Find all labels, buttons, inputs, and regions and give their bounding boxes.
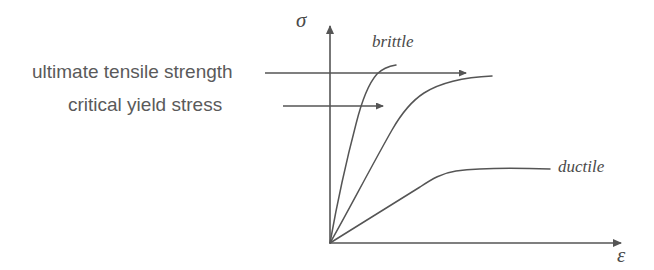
curve-label-ductile: ductile: [558, 158, 604, 175]
curve-brittle: [330, 65, 396, 243]
label-ultimate-tensile-strength: ultimate tensile strength: [32, 62, 233, 81]
y-axis-label-sigma: σ: [296, 10, 306, 31]
stress-strain-figure: ultimate tensile strength critical yield…: [0, 0, 654, 270]
label-critical-yield-stress: critical yield stress: [68, 95, 222, 114]
curve-ductile: [330, 168, 550, 243]
x-axis-label-epsilon: ε: [617, 245, 625, 266]
curve-intermediate: [330, 76, 492, 243]
curve-label-brittle: brittle: [372, 33, 414, 50]
figure-canvas: [0, 0, 654, 270]
